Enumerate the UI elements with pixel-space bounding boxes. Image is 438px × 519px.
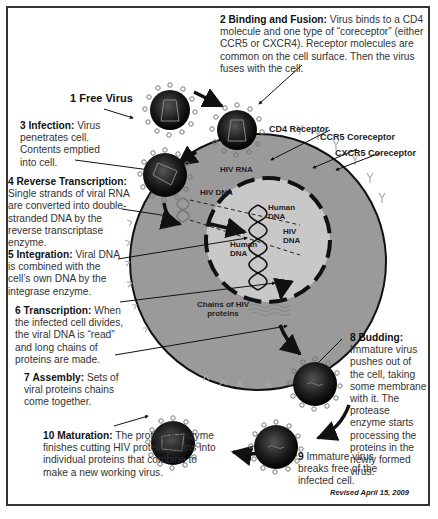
protein-chains-label: Chains of HIV proteins (193, 300, 253, 318)
step-1-label: 1 Free Virus (70, 92, 133, 104)
human-dna-label-2: Human DNA (230, 240, 262, 258)
nucleus-hiv-dna-label: HIV DNA (283, 227, 309, 245)
cxcr5-coreceptor-label: CXCR5 Coreceptor (335, 148, 416, 158)
step-7-label: 7 Assembly: Sets of viral proteins chain… (24, 372, 124, 409)
ccr5-coreceptor-label: CCR5 Coreceptor (320, 132, 395, 142)
hiv-rna-label: HIV RNA (220, 165, 253, 174)
virus-immature (249, 420, 303, 474)
revised-date: Revised April 15, 2009 (330, 488, 409, 497)
step-4-label: 4 Reverse Transcription: Single strands … (8, 176, 133, 249)
step-3-label: 3 Infection: Virus penetrates cell. Cont… (20, 120, 110, 169)
virus-free (143, 83, 197, 137)
step-9-label: 9 Immature virus breaks free of the infe… (298, 451, 388, 488)
step-2-label: 2 Binding and Fusion: Virus binds to a C… (220, 14, 425, 75)
step-6-label: 6 Transcription: When the infected cell … (15, 305, 133, 366)
step-5-label: 5 Integration: Viral DNA is combined wit… (8, 249, 120, 298)
hiv-dna-label: HIV DNA (200, 188, 233, 197)
human-dna-label-1: Human DNA (268, 203, 300, 221)
step-10-label: 10 Maturation: The protease enzyme finis… (43, 430, 223, 479)
